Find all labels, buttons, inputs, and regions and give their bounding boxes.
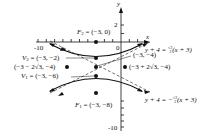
y-axis <box>119 7 124 131</box>
label-asymptote-upper: y + 4 = √33(x + 3) <box>145 46 192 54</box>
y-axis-label: y <box>117 0 120 8</box>
focus-f1 <box>94 91 98 95</box>
label-right-point: (−3 + 2√3, −4) <box>129 63 170 71</box>
label-f2: F2 = (−3, 0) <box>77 28 110 38</box>
center <box>94 65 98 69</box>
label-v1: V1 = (−3, −6) <box>21 72 58 82</box>
right-point <box>123 65 127 69</box>
y-tick-neg10: -10 <box>108 124 117 132</box>
x-axis-label: x <box>146 33 149 41</box>
label-asymptote-lower: y + 4 = −√33(x + 3) <box>145 96 196 104</box>
x-tick-zero: 0 <box>116 44 120 52</box>
x-axis <box>36 39 150 44</box>
y-tick-two: 2 <box>114 21 118 29</box>
label-f1: F1 = (−3, −8) <box>75 101 112 111</box>
vertex-v1 <box>94 74 98 78</box>
x-tick-neg10: -10 <box>34 44 43 52</box>
hyperbola-figure: y x -10 0 2 -10 F2 = (−3, 0) V2 = (−3, −… <box>0 0 208 137</box>
left-point <box>65 65 69 69</box>
focus-f2 <box>94 40 98 44</box>
vertex-v2 <box>94 56 98 60</box>
lower-branch <box>50 79 142 92</box>
label-left-point: (−3 − 2√3, −4) <box>14 63 55 71</box>
